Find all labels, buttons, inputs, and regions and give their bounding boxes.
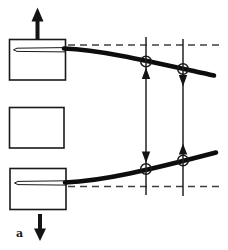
middle-reference-box (10, 108, 65, 149)
bottom-box-outline (10, 169, 66, 210)
top-notch-slot (14, 48, 66, 52)
bottom-notch-slot (15, 181, 67, 185)
cantilever-beam-diagram: a (0, 0, 228, 250)
top-grip-box (10, 40, 66, 81)
top-box-outline (10, 40, 66, 81)
figure-canvas: a (0, 0, 228, 250)
bottom-grip-box (10, 169, 66, 210)
panel-label: a (16, 227, 23, 240)
